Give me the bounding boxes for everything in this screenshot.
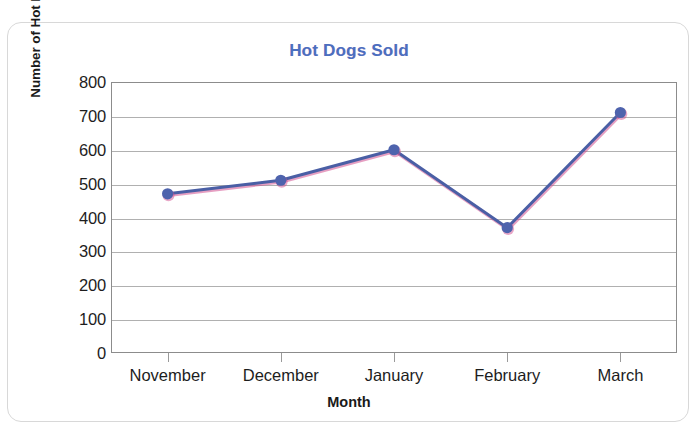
y-axis-tick-label: 700	[54, 106, 106, 125]
data-point-marker	[615, 107, 626, 118]
x-axis-tick-label: November	[103, 366, 233, 385]
series-line	[168, 112, 621, 227]
y-axis-tick-label: 600	[54, 140, 106, 159]
data-point-marker	[388, 144, 399, 155]
chart-title: Hot Dogs Sold	[8, 41, 690, 61]
x-axis-tick	[281, 353, 282, 362]
x-axis-tick-label: December	[216, 366, 346, 385]
x-axis-tick	[168, 353, 169, 362]
y-axis-tick-label: 400	[54, 208, 106, 227]
x-axis-tick	[394, 353, 395, 362]
y-axis-tick-label: 800	[54, 73, 106, 92]
y-axis-title: Number of Hot Dogs	[28, 0, 44, 148]
y-axis-tick-label: 0	[54, 344, 106, 363]
line-series	[111, 82, 677, 353]
data-point-marker	[275, 175, 286, 186]
series-line-shadow	[169, 114, 622, 229]
chart-card: Hot Dogs Sold Number of Hot Dogs 0100200…	[7, 22, 689, 422]
data-point-marker	[162, 188, 173, 199]
y-axis-tick-label: 200	[54, 276, 106, 295]
x-axis-tick	[620, 353, 621, 362]
y-axis-tick-label: 500	[54, 174, 106, 193]
x-axis-tick-label: January	[329, 366, 459, 385]
x-axis-tick-label: February	[442, 366, 572, 385]
x-axis-title: Month	[8, 394, 690, 410]
x-axis-tick-labels: NovemberDecemberJanuaryFebruaryMarch	[111, 366, 677, 392]
x-axis-ticks	[111, 353, 677, 362]
x-axis-tick-label: March	[555, 366, 685, 385]
x-axis-tick	[507, 353, 508, 362]
y-axis-tick-labels: 0100200300400500600700800	[51, 82, 106, 353]
data-point-marker	[502, 222, 513, 233]
y-axis-tick-label: 100	[54, 310, 106, 329]
y-axis-tick-label: 300	[54, 242, 106, 261]
